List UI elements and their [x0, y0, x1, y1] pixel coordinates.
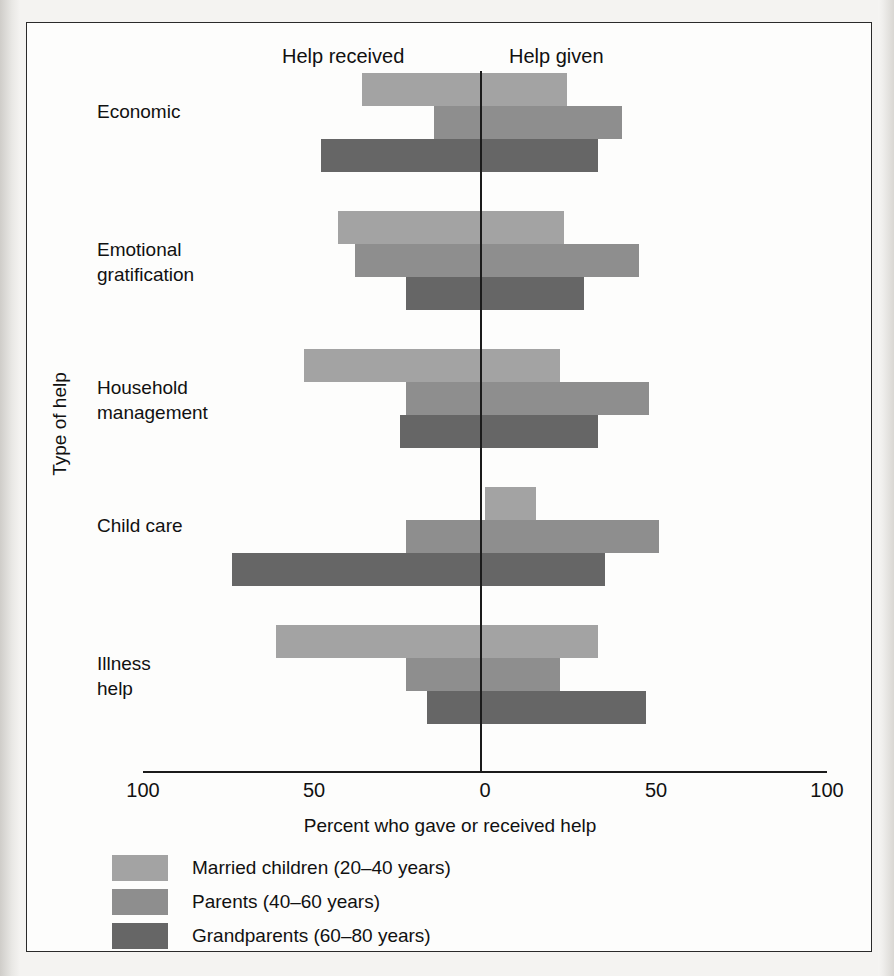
bar-segment — [400, 415, 598, 448]
legend-swatch — [112, 889, 168, 915]
legend-item: Grandparents (60–80 years) — [112, 919, 712, 953]
legend-item: Parents (40–60 years) — [112, 885, 712, 919]
legend-label: Married children (20–40 years) — [192, 857, 451, 879]
bar-segment — [406, 520, 659, 553]
category-label: Economic — [97, 99, 287, 124]
bar-group: Illness help — [27, 625, 873, 763]
bar-segment — [485, 487, 536, 520]
bar-group: Economic — [27, 73, 873, 211]
x-tick-label: 50 — [645, 779, 667, 802]
bar-segment — [276, 625, 597, 658]
bar-segment — [304, 349, 561, 382]
legend-swatch — [112, 923, 168, 949]
x-tick-label: 0 — [479, 779, 490, 802]
bar-segment — [406, 277, 584, 310]
page-edge-shadow-right — [878, 0, 894, 976]
bar-segment — [362, 73, 567, 106]
bar-group: Child care — [27, 487, 873, 625]
bar-group: Household management — [27, 349, 873, 487]
category-label: Household management — [97, 375, 287, 425]
bar-group: Emotional gratification — [27, 211, 873, 349]
legend-label: Grandparents (60–80 years) — [192, 925, 431, 947]
chart-plot-area: Help received Help given EconomicEmotion… — [27, 23, 873, 953]
x-tick-label: 50 — [303, 779, 325, 802]
bar-segment — [338, 211, 564, 244]
legend-swatch — [112, 855, 168, 881]
chart-legend: Married children (20–40 years)Parents (4… — [112, 851, 712, 953]
x-axis-title: Percent who gave or received help — [27, 815, 873, 837]
y-axis-title: Type of help — [49, 329, 71, 519]
legend-label: Parents (40–60 years) — [192, 891, 380, 913]
bar-segment — [427, 691, 646, 724]
x-axis-line — [143, 771, 827, 773]
x-tick-label: 100 — [126, 779, 159, 802]
page-edge-shadow-left — [0, 0, 20, 976]
direction-label-help-received: Help received — [282, 45, 404, 68]
legend-item: Married children (20–40 years) — [112, 851, 712, 885]
bar-segment — [434, 106, 622, 139]
bar-segment — [355, 244, 639, 277]
direction-label-help-given: Help given — [509, 45, 604, 68]
category-label: Illness help — [97, 651, 287, 701]
category-label: Child care — [97, 513, 287, 538]
category-label: Emotional gratification — [97, 237, 287, 287]
bars-container: EconomicEmotional gratificationHousehold… — [27, 73, 873, 763]
scanned-page: Help received Help given EconomicEmotion… — [0, 0, 894, 976]
bar-segment — [406, 658, 560, 691]
bar-segment — [321, 139, 598, 172]
bar-segment — [232, 553, 605, 586]
bar-segment — [406, 382, 649, 415]
zero-axis-line — [480, 71, 482, 771]
x-tick-label: 100 — [810, 779, 843, 802]
figure-frame: Help received Help given EconomicEmotion… — [26, 22, 872, 952]
